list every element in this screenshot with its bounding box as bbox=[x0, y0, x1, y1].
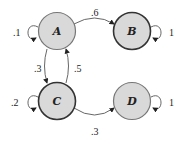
node-d: D bbox=[114, 83, 151, 120]
edge-c-a bbox=[66, 49, 69, 83]
loop-c bbox=[28, 96, 38, 109]
edge-label-c-a: .5 bbox=[74, 63, 82, 74]
edge-label-a-a: .1 bbox=[13, 27, 21, 38]
edge-label-b-b: 1 bbox=[169, 27, 174, 38]
node-b: B bbox=[114, 13, 151, 50]
loop-b bbox=[151, 26, 161, 39]
loop-d bbox=[151, 96, 161, 109]
loop-a bbox=[28, 26, 38, 39]
node-c-label: C bbox=[53, 95, 62, 108]
node-d-label: D bbox=[126, 95, 137, 108]
edge-label-c-d: .3 bbox=[91, 126, 99, 137]
edge-label-a-c: .3 bbox=[34, 63, 42, 74]
node-a: A bbox=[39, 13, 76, 50]
node-b-label: B bbox=[126, 25, 136, 38]
node-c: C bbox=[39, 83, 76, 120]
edge-label-c-c: .2 bbox=[11, 97, 19, 108]
edge-a-c bbox=[45, 49, 48, 83]
edge-a-b bbox=[74, 18, 114, 24]
node-a-label: A bbox=[52, 25, 62, 38]
edge-label-a-b: .6 bbox=[91, 7, 99, 18]
edge-label-d-d: 1 bbox=[169, 97, 174, 108]
edge-c-d bbox=[74, 108, 114, 115]
markov-diagram: A B C D .1 .6 .3 .5 1 .2 .3 1 bbox=[0, 0, 187, 144]
